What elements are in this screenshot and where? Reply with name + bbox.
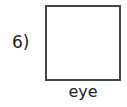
word-label: eye — [45, 82, 121, 102]
item-number-label: 6) — [12, 32, 29, 52]
drawing-answer-box[interactable] — [45, 5, 121, 81]
